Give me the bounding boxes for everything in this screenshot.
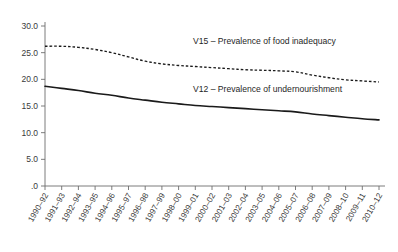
y-tick-label: 30.0: [21, 21, 38, 31]
y-tick-label: 10.0: [21, 128, 38, 138]
y-tick-label: 25.0: [21, 48, 38, 58]
y-tick-label: 20.0: [21, 74, 38, 84]
line-chart: 30.025.020.015.010.05.0.0 1990–921991–93…: [0, 0, 398, 252]
series-line-v15: [45, 46, 379, 82]
y-tick-label: 15.0: [21, 101, 38, 111]
series-annotation-group: V15 – Prevalence of food inadequacyV12 –…: [193, 36, 343, 94]
chart-container: 30.025.020.015.010.05.0.0 1990–921991–93…: [0, 0, 398, 252]
x-axis-label-group: 1990–921991–931992–941993–951994–961995–…: [27, 191, 385, 223]
y-tick-label: .0: [31, 181, 38, 191]
series-annotation-v15: V15 – Prevalence of food inadequacy: [193, 36, 337, 46]
y-tick-label: 5.0: [26, 154, 38, 164]
x-axis-tick-group: [45, 186, 379, 190]
y-axis-tick-group: 30.025.020.015.010.05.0.0: [21, 21, 45, 191]
series-annotation-v12: V12 – Prevalence of undernourishment: [193, 84, 343, 94]
